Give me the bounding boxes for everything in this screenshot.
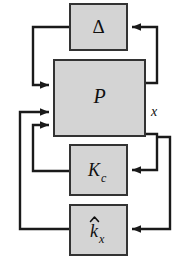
- block-delta[interactable]: Δ: [70, 4, 127, 50]
- block-plant[interactable]: P: [54, 60, 145, 136]
- block-kc-subscript: c: [101, 171, 107, 185]
- wire-x-to-k-hat-x: [132, 137, 170, 229]
- block-kc-label: K: [87, 160, 101, 180]
- block-kc[interactable]: K c: [70, 145, 127, 195]
- block-k-hat-x-body: [70, 205, 127, 255]
- block-plant-label: P: [92, 85, 105, 107]
- block-k-hat-x[interactable]: k x: [70, 205, 127, 255]
- wire-x-to-kc: [132, 134, 157, 170]
- block-delta-label: Δ: [92, 16, 104, 37]
- block-diagram-canvas: Δ P K c k x x: [0, 0, 190, 261]
- block-diagram-figure: Δ P K c k x x: [0, 0, 190, 261]
- block-k-hat-x-subscript: x: [98, 232, 105, 246]
- signal-label-x: x: [150, 104, 158, 119]
- block-k-hat-x-label: k: [90, 221, 99, 241]
